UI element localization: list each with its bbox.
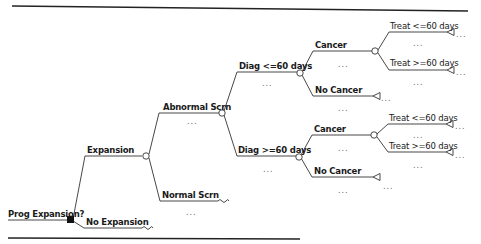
cancer-2-branch-line: [301, 135, 371, 155]
no-expansion-label: No Expansion: [86, 217, 149, 227]
treat-ge60-1-ellipsis: ...: [413, 79, 424, 87]
treat-ge60-2-ellipsis: ...: [413, 162, 424, 170]
no-cancer-1-ellipsis: ...: [338, 105, 349, 113]
expansion-label: Expansion: [87, 145, 134, 155]
diag-ge60-ellipsis: ...: [263, 166, 274, 174]
treat-ge60-2-terminal-text: ...: [455, 152, 466, 160]
abnormal-scrn-branch-line: [149, 113, 219, 154]
cancer-2-label: Cancer: [314, 124, 346, 134]
treat-le60-1-ellipsis: ...: [413, 40, 424, 48]
no-cancer-1-label: No Cancer: [315, 85, 362, 95]
diag-le60-ellipsis: ...: [262, 80, 273, 88]
cancer-1-ellipsis: ...: [338, 61, 349, 69]
no-cancer-1-terminal-text: ...: [381, 95, 392, 103]
diag-le60-branch-line: [224, 72, 297, 111]
normal-scrn-label: Normal Scrn: [162, 190, 219, 200]
treat-ge60-1-terminal-text: ...: [456, 69, 467, 77]
chance-node-cancer-2-icon[interactable]: [371, 132, 377, 138]
treat-ge60-2-label: Treat >=60 days: [389, 141, 458, 151]
treat-le60-2-terminal-text: ...: [455, 123, 466, 131]
top-rule: [12, 6, 468, 11]
abnormal-scrn-label: Abnormal Scrn: [163, 102, 231, 112]
treat-le60-2-branch-line: [377, 124, 446, 134]
no-cancer-2-label: No Cancer: [314, 166, 361, 176]
normal-scrn-squiggle-icon: [218, 200, 229, 203]
abnormal-scrn-ellipsis: ...: [187, 118, 198, 126]
treat-le60-2-label: Treat <=60 days: [389, 113, 458, 123]
cancer-1-label: Cancer: [315, 40, 347, 50]
bottom-rule: [8, 238, 300, 239]
no-cancer-2-ellipsis: ...: [338, 187, 349, 195]
cancer-2-ellipsis: ...: [338, 145, 349, 153]
treat-ge60-1-label: Treat >=60 days: [390, 58, 459, 68]
treat-le60-1-label: Treat <=60 days: [390, 21, 459, 31]
chance-node-expansion-icon[interactable]: [143, 153, 149, 159]
no-cancer-2-terminal-text: ...: [383, 183, 394, 191]
treat-le60-2-ellipsis: ...: [413, 132, 424, 140]
cancer-1-branch-line: [302, 51, 372, 72]
diag-le60-label: Diag <=60 days: [239, 61, 312, 71]
root-label: Prog Expansion?: [8, 209, 84, 219]
normal-scrn-ellipsis: ...: [186, 209, 197, 217]
treat-le60-1-terminal-text: ...: [456, 31, 467, 39]
diag-ge60-label: Diag >=60 days: [238, 145, 311, 155]
chance-node-cancer-1-icon[interactable]: [372, 48, 378, 54]
terminal-node-no-cancer-2-icon[interactable]: [373, 174, 380, 181]
terminal-node-no-cancer-1-icon[interactable]: [373, 93, 380, 100]
